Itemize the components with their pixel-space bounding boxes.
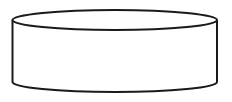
cylinder-shape	[13, 10, 218, 92]
cylinder-top-ellipse	[13, 10, 218, 30]
cylinder-diagram	[0, 0, 232, 102]
